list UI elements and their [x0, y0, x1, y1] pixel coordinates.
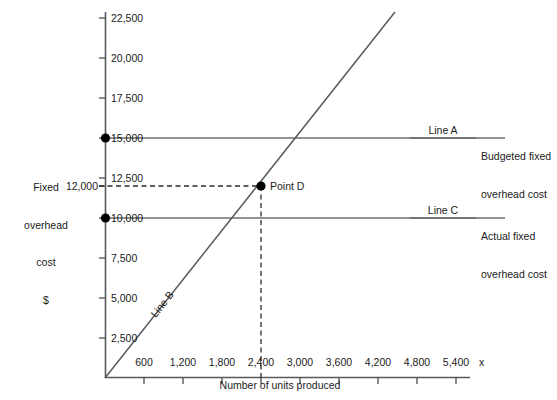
- x-tick-label-1200: 1,200: [163, 356, 203, 368]
- y-tick-label-20000: 20,000: [111, 52, 143, 64]
- x-axis-title: Number of units produced: [185, 379, 375, 391]
- line-c-callout: Actual fixed overhead cost: [481, 205, 557, 305]
- y-axis-title-line-1: Fixed: [8, 181, 84, 194]
- marker-budgeted-15000: [101, 133, 110, 142]
- line-a-callout-line-1: Budgeted fixed: [481, 150, 557, 163]
- y-axis-title-line-2: overhead: [8, 219, 84, 232]
- x-tick-label-3600: 3,600: [319, 356, 359, 368]
- y-tick-label-10000: 10,000: [111, 212, 143, 224]
- line-c-callout-line-2: overhead cost: [481, 268, 557, 281]
- line-a-label: Line A: [412, 124, 474, 136]
- y-tick-label-7500: 7,500: [111, 252, 137, 264]
- y-tick-label-12500: 12,500: [111, 172, 143, 184]
- x-tick-label-1800: 1,800: [202, 356, 242, 368]
- line-a-callout-line-2: overhead cost: [481, 188, 557, 201]
- line-b-absorbed-overhead: [105, 12, 395, 378]
- y-tick-label-22500: 22,500: [111, 12, 143, 24]
- y-tick-marks: [99, 18, 105, 338]
- line-c-label: Line C: [412, 204, 474, 216]
- y-tick-label-5000: 5,000: [111, 292, 137, 304]
- point-d-label: Point D: [270, 180, 304, 192]
- y-tick-label-2500: 2,500: [111, 332, 137, 344]
- x-tick-label-4800: 4,800: [397, 356, 437, 368]
- y-axis-title: Fixed overhead cost $: [8, 156, 84, 331]
- x-tick-label-3000: 3,000: [280, 356, 320, 368]
- line-c-callout-line-1: Actual fixed: [481, 230, 557, 243]
- x-tick-label-4200: 4,200: [358, 356, 398, 368]
- x-tick-label-600: 600: [124, 356, 164, 368]
- fixed-overhead-cost-chart: 22,500 20,000 17,500 15,000 12,500 10,00…: [0, 0, 557, 400]
- marker-point-d: [256, 181, 265, 190]
- y-tick-label-15000: 15,000: [111, 132, 143, 144]
- x-tick-label-2400: 2,400: [241, 356, 281, 368]
- marker-actual-10000: [101, 213, 110, 222]
- y-axis-title-line-3: cost: [8, 256, 84, 269]
- y-tick-label-17500: 17,500: [111, 92, 143, 104]
- y-axis-title-line-4: $: [8, 294, 84, 307]
- x-axis-symbol: x: [479, 356, 484, 368]
- x-tick-label-5400: 5,400: [436, 356, 476, 368]
